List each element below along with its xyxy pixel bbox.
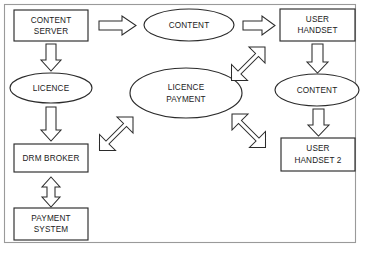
arrow-licence-payment-to-user-handset-2: [232, 114, 266, 148]
node-licence[interactable]: LICENCE: [10, 73, 92, 103]
node-user-handset-2[interactable]: USER HANDSET 2: [281, 138, 355, 171]
node-payment-system-label-line-2: SYSTEM: [34, 225, 69, 234]
diagram-canvas: CONTENT SERVER CONTENT USER HANDSET LICE…: [0, 0, 368, 261]
node-user-handset-2-label-line-1: USER: [306, 144, 329, 153]
arrow-user-handset-to-content-right: [307, 44, 328, 73]
node-licence-payment-label-line-1: LICENCE: [168, 83, 205, 92]
node-content-server-label-line-1: CONTENT: [31, 16, 72, 25]
node-licence-payment[interactable]: LICENCE PAYMENT: [130, 68, 242, 118]
node-payment-system-label-line-1: PAYMENT: [31, 214, 70, 223]
arrow-content-server-to-content: [99, 16, 136, 35]
node-licence-payment-label-line-2: PAYMENT: [166, 95, 205, 104]
node-content-top-label: CONTENT: [169, 21, 210, 30]
node-content-right-label: CONTENT: [297, 86, 338, 95]
arrow-licence-to-drm-broker: [41, 107, 61, 141]
arrow-licence-payment-to-user-handset: [232, 47, 266, 81]
arrow-content-server-to-licence: [41, 44, 61, 71]
node-drm-broker[interactable]: DRM BROKER: [14, 144, 88, 172]
node-content-server[interactable]: CONTENT SERVER: [14, 10, 88, 41]
arrow-content-right-to-user-handset-2: [308, 109, 329, 136]
arrow-drm-broker-to-payment-system: [42, 177, 60, 207]
drm-flow-diagram: CONTENT SERVER CONTENT USER HANDSET LICE…: [0, 0, 368, 261]
node-content-server-label-line-2: SERVER: [34, 27, 68, 36]
node-drm-broker-label: DRM BROKER: [23, 154, 80, 163]
arrow-licence-payment-to-drm-broker: [100, 117, 134, 151]
node-content-top[interactable]: CONTENT: [144, 9, 234, 41]
node-licence-label: LICENCE: [33, 84, 70, 93]
node-payment-system[interactable]: PAYMENT SYSTEM: [14, 208, 88, 240]
node-user-handset[interactable]: USER HANDSET: [280, 9, 355, 41]
arrow-content-to-user-handset: [243, 16, 275, 35]
node-user-handset-label-line-1: USER: [306, 15, 329, 24]
node-user-handset-2-label-line-2: HANDSET 2: [294, 156, 341, 165]
node-user-handset-label-line-2: HANDSET: [297, 26, 337, 35]
node-content-right[interactable]: CONTENT: [275, 74, 359, 106]
